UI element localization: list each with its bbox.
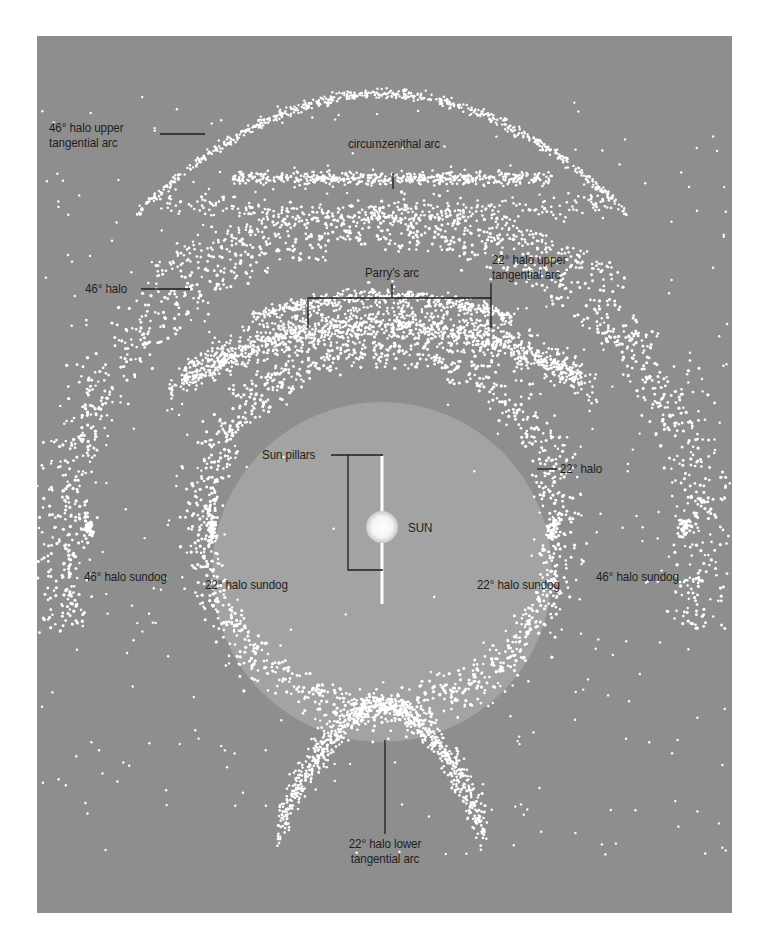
label-circumzenithal-arc: circumzenithal arc <box>338 136 450 151</box>
sun-icon <box>366 511 398 543</box>
label-46-sundog-right: 46° halo sundog <box>596 569 679 584</box>
label-46-halo: 46° halo <box>85 281 127 296</box>
label-46-sundog-left: 46° halo sundog <box>84 569 167 584</box>
label-46-upper-tangential-1: 46° halo upper <box>49 120 123 135</box>
label-46-upper-tangential-2: tangential arc <box>49 135 118 150</box>
label-22-sundog-right: 22° halo sundog <box>477 577 560 592</box>
label-22-upper-tangential-1: 22° halo upper <box>492 252 566 267</box>
label-sun: SUN <box>408 520 432 535</box>
label-parrys-arc: Parry's arc <box>349 265 435 280</box>
halo-artwork <box>37 36 732 913</box>
label-22-halo: 22° halo <box>560 461 602 476</box>
label-22-sundog-left: 22° halo sundog <box>205 577 288 592</box>
label-22-lower-tangential-2: tangential arc <box>325 851 445 866</box>
label-22-lower-tangential-1: 22° halo lower <box>325 836 445 851</box>
halo-diagram: circumzenithal arc 46° halo upper tangen… <box>37 36 732 913</box>
label-22-upper-tangential-2: tangential arc <box>492 267 561 282</box>
label-sun-pillars: Sun pillars <box>262 447 315 462</box>
